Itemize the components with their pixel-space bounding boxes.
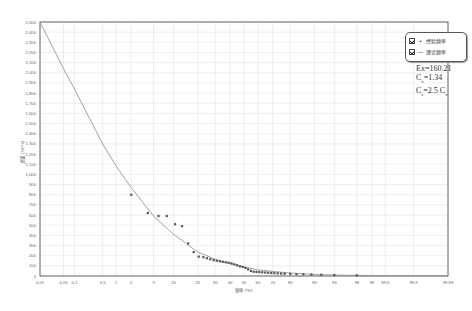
x-tick-label: 0.01 bbox=[36, 280, 45, 285]
data-point bbox=[166, 215, 168, 217]
data-point bbox=[187, 242, 189, 244]
x-tick-label: 98 bbox=[354, 280, 359, 285]
y-tick-label: 1,300 bbox=[26, 141, 37, 146]
y-tick-label: 300 bbox=[29, 243, 37, 248]
data-point bbox=[209, 258, 211, 260]
legend-item-empirical[interactable]: • 经验频率 bbox=[409, 35, 463, 46]
y-tick-label: 1,000 bbox=[26, 172, 37, 177]
legend-item-theoretical[interactable]: — 理论频率 bbox=[409, 46, 463, 57]
data-point bbox=[310, 273, 312, 275]
data-point bbox=[250, 270, 252, 272]
data-point bbox=[284, 273, 286, 275]
line-icon: — bbox=[417, 49, 424, 55]
data-point bbox=[239, 265, 241, 267]
x-tick-label: 0.1 bbox=[72, 280, 78, 285]
data-point bbox=[244, 267, 246, 269]
data-point bbox=[222, 261, 224, 263]
y-tick-label: 2,300 bbox=[26, 40, 37, 45]
x-tick-label: 90 bbox=[312, 280, 317, 285]
data-point bbox=[198, 256, 200, 258]
y-tick-label: 600 bbox=[29, 213, 37, 218]
data-point bbox=[255, 271, 257, 273]
y-tick-label: 1,100 bbox=[26, 162, 37, 167]
y-tick-label: 1,200 bbox=[26, 152, 37, 157]
x-tick-label: 70 bbox=[270, 280, 275, 285]
data-point bbox=[236, 264, 238, 266]
x-tick-label: 30 bbox=[213, 280, 218, 285]
frequency-chart: 01002003004005006007008009001,0001,1001,… bbox=[0, 0, 472, 311]
data-point bbox=[280, 272, 282, 274]
data-point bbox=[289, 273, 291, 275]
x-tick-label: 0.5 bbox=[100, 280, 106, 285]
y-axis-label: 流量 (m³/s) bbox=[19, 140, 26, 163]
legend-label-empirical: 经验频率 bbox=[426, 37, 446, 44]
data-point bbox=[356, 274, 358, 276]
y-tick-label: 900 bbox=[29, 182, 37, 187]
y-tick-label: 2,100 bbox=[26, 60, 37, 65]
data-point bbox=[216, 260, 218, 262]
x-tick-label: 2 bbox=[130, 280, 133, 285]
x-tick-label: 1 bbox=[115, 280, 118, 285]
checkbox-empirical[interactable] bbox=[409, 38, 415, 44]
checkbox-theoretical[interactable] bbox=[409, 49, 415, 55]
data-point bbox=[253, 271, 255, 273]
data-point bbox=[233, 263, 235, 265]
data-point bbox=[247, 268, 249, 270]
legend-label-theoretical: 理论频率 bbox=[426, 48, 446, 55]
x-tick-label: 20 bbox=[195, 280, 200, 285]
cv-annotation: Cv=1.34 bbox=[416, 73, 451, 86]
x-tick-label: 99.9 bbox=[409, 280, 418, 285]
data-point bbox=[277, 272, 279, 274]
y-tick-label: 2,400 bbox=[26, 30, 37, 35]
y-tick-label: 2,200 bbox=[26, 50, 37, 55]
cs-annotation: Cs=2.5 Cv bbox=[416, 86, 451, 99]
y-tick-label: 0 bbox=[34, 274, 37, 279]
y-tick-label: 2,000 bbox=[26, 70, 37, 75]
y-tick-label: 2,500 bbox=[26, 20, 37, 25]
y-tick-label: 1,700 bbox=[26, 101, 37, 106]
parameter-annotations: Ex=160.21 Cv=1.34 Cs=2.5 Cv bbox=[416, 64, 451, 98]
data-point bbox=[225, 261, 227, 263]
y-tick-label: 800 bbox=[29, 192, 37, 197]
x-tick-label: 99.5 bbox=[381, 280, 390, 285]
x-tick-label: 60 bbox=[256, 280, 261, 285]
y-tick-label: 400 bbox=[29, 233, 37, 238]
y-axis-ticks: 01002003004005006007008009001,0001,1001,… bbox=[26, 20, 37, 279]
data-point bbox=[320, 274, 322, 276]
ex-annotation: Ex=160.21 bbox=[416, 64, 451, 73]
x-axis-ticks: 0.010.050.10.512510203040506070809095989… bbox=[36, 280, 454, 285]
data-point bbox=[333, 274, 335, 276]
data-point bbox=[267, 272, 269, 274]
legend: • 经验频率 — 理论频率 bbox=[405, 32, 467, 62]
x-tick-label: 80 bbox=[288, 280, 293, 285]
data-point bbox=[273, 272, 275, 274]
data-point bbox=[270, 272, 272, 274]
data-point bbox=[264, 271, 266, 273]
data-point bbox=[228, 262, 230, 264]
data-point bbox=[206, 257, 208, 259]
data-point bbox=[147, 212, 149, 214]
y-tick-label: 700 bbox=[29, 202, 37, 207]
data-point bbox=[212, 259, 214, 261]
grid-lines bbox=[40, 22, 448, 276]
x-tick-label: 99.99 bbox=[443, 280, 454, 285]
x-tick-label: 99 bbox=[369, 280, 374, 285]
y-tick-label: 1,900 bbox=[26, 80, 37, 85]
x-axis-label: 频率 (%) bbox=[235, 287, 252, 294]
x-tick-label: 40 bbox=[228, 280, 233, 285]
y-tick-label: 500 bbox=[29, 223, 37, 228]
dot-icon: • bbox=[417, 38, 424, 44]
data-point bbox=[261, 271, 263, 273]
data-point bbox=[230, 262, 232, 264]
x-tick-label: 0.05 bbox=[59, 280, 68, 285]
data-point bbox=[174, 223, 176, 225]
data-point bbox=[295, 273, 297, 275]
x-tick-label: 5 bbox=[152, 280, 155, 285]
data-point bbox=[202, 256, 204, 258]
data-point bbox=[130, 194, 132, 196]
data-point bbox=[157, 215, 159, 217]
data-point bbox=[193, 251, 195, 253]
y-tick-label: 1,500 bbox=[26, 121, 37, 126]
y-tick-label: 1,400 bbox=[26, 131, 37, 136]
x-tick-label: 50 bbox=[242, 280, 247, 285]
